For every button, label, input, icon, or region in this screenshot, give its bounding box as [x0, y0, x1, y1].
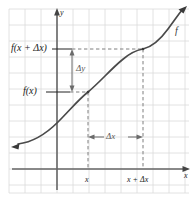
difference-quotient-figure: f(x + Δx) f(x) Δy Δx x x + Δx y x f [0, 0, 196, 203]
label-delta-y: Δy [76, 64, 85, 73]
figure-canvas [0, 0, 196, 203]
axis-label-x: x [184, 172, 188, 180]
axis-label-y: y [60, 9, 64, 17]
function-curve [11, 6, 187, 150]
label-delta-x: Δx [106, 132, 115, 141]
tick-label-x-plus-delta-x: x + Δx [127, 176, 148, 184]
point-marker-x [87, 91, 90, 94]
label-f-x-plus-delta-x: f(x + Δx) [11, 43, 47, 53]
point-marker-x-plus-delta-x [142, 48, 145, 51]
label-f-x: f(x) [23, 86, 37, 96]
curve-label-f: f [175, 26, 178, 36]
y-axis [54, 8, 60, 190]
delta-y-measure [70, 49, 75, 92]
tick-label-x: x [85, 176, 89, 184]
x-axis [12, 166, 190, 172]
